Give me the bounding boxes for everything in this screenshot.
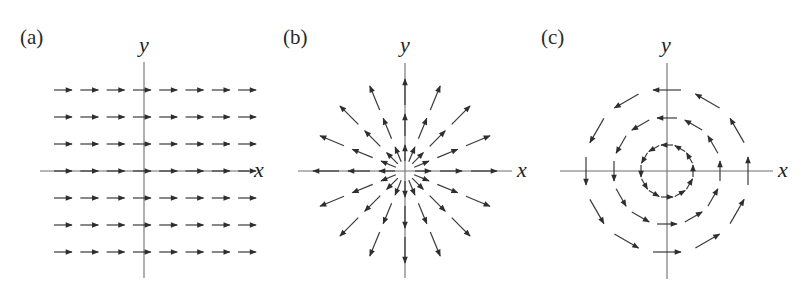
panel-c: (c) x y [541,25,788,279]
vector-arrow [695,94,719,108]
vector-arrow [616,136,626,153]
panel-b-label: (b) [283,25,308,49]
panel-a-y-axis-label: y [137,32,149,57]
vector-arrow [614,94,638,108]
vector-arrow [430,232,440,256]
vector-arrow [395,180,401,195]
vector-arrow [340,218,358,236]
vector-arrow [632,212,649,222]
vector-arrow [430,86,440,110]
vector-arrow [418,118,426,138]
vector-arrow [730,199,744,223]
vector-arrow [352,184,372,192]
panel-a-x-axis-label: x [253,157,264,182]
vector-arrow [430,196,446,212]
vector-arrow [642,153,648,163]
vector-arrow [418,203,426,223]
vector-arrow [466,136,490,146]
panel-c-x-axis-label: x [777,157,788,182]
vector-arrow [412,153,423,164]
panel-c-y-axis-label: y [659,32,671,57]
vector-arrow [370,86,380,110]
vector-arrow [409,180,415,195]
vector-arrow [708,136,718,153]
vector-arrow [708,189,718,206]
vector-arrow [381,161,396,167]
vector-arrow [590,199,604,223]
vector-arrow [642,179,648,189]
panel-a: (a) x y [20,25,264,278]
vector-arrow [452,218,470,236]
vector-arrow [685,212,702,222]
vector-arrow [387,153,398,164]
vector-arrow [616,189,626,206]
vector-arrow [590,118,604,142]
vector-arrow [649,191,659,197]
vector-arrow [387,178,398,189]
vector-arrow [730,118,744,142]
vector-arrow [687,153,693,163]
vector-arrow [409,147,415,162]
panel-c-label: (c) [541,25,564,49]
vector-arrow [685,120,702,130]
vector-arrow [430,131,446,147]
vector-arrow [675,191,685,197]
vector-arrow [352,149,372,157]
vector-arrow [687,179,693,189]
vector-arrow [414,175,429,181]
vector-arrow [414,161,429,167]
vector-arrow [614,234,638,248]
vector-arrow [437,149,457,157]
vector-arrow [320,196,344,206]
vector-arrow [437,184,457,192]
vector-arrow [452,106,470,124]
panel-b: (b) x y [283,25,527,278]
vector-field-figure: (a) x y (b) x y (c) x y [0,0,806,293]
panel-a-label: (a) [20,25,43,49]
vector-arrow [365,131,381,147]
vector-arrow [675,146,685,152]
vector-arrow [695,234,719,248]
vector-arrow [395,147,401,162]
vector-arrow [365,196,381,212]
vector-arrow [340,106,358,124]
panel-b-y-axis-label: y [398,32,410,57]
vector-arrow [466,196,490,206]
panel-b-x-axis-label: x [516,157,527,182]
vector-arrow [412,178,423,189]
vector-arrow [320,136,344,146]
vector-arrow [381,175,396,181]
vector-arrow [383,203,391,223]
figure-canvas: (a) x y (b) x y (c) x y [0,0,806,293]
vector-arrow [370,232,380,256]
vector-arrow [649,146,659,152]
vector-arrow [383,118,391,138]
vector-arrow [632,120,649,130]
